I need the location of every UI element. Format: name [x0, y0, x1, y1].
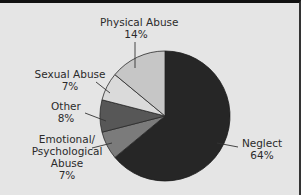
label-other: Other 8% — [46, 100, 86, 124]
label-neglect: Neglect 64% — [237, 137, 287, 161]
label-emotional-psychological-abuse: Emotional/ Psychological Abuse 7% — [26, 133, 108, 181]
chart-frame: Physical Abuse 14% Sexual Abuse 7% Other… — [0, 0, 301, 195]
label-physical-abuse: Physical Abuse 14% — [100, 16, 172, 40]
label-sexual-abuse: Sexual Abuse 7% — [30, 68, 110, 92]
